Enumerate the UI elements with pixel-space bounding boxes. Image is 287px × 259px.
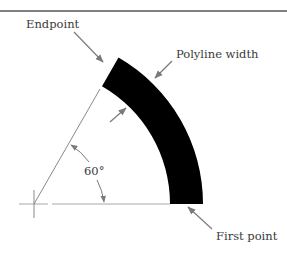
angle-arc-lower	[97, 180, 104, 202]
polyline-width-leader-inner	[110, 108, 126, 122]
endpoint-label: Endpoint	[26, 17, 80, 31]
endpoint-leader	[74, 32, 103, 62]
polyline-width-leader-outer	[155, 61, 172, 78]
first-point-label: First point	[216, 229, 278, 243]
polyline-arc-diagram: 60° Endpoint Polyline width First point	[0, 0, 287, 259]
polyline-arc	[102, 58, 203, 204]
angle-label: 60°	[84, 164, 104, 178]
radial-line	[34, 89, 100, 204]
polyline-width-label: Polyline width	[176, 47, 259, 61]
first-point-leader	[188, 207, 212, 229]
angle-arc-upper	[71, 145, 89, 162]
